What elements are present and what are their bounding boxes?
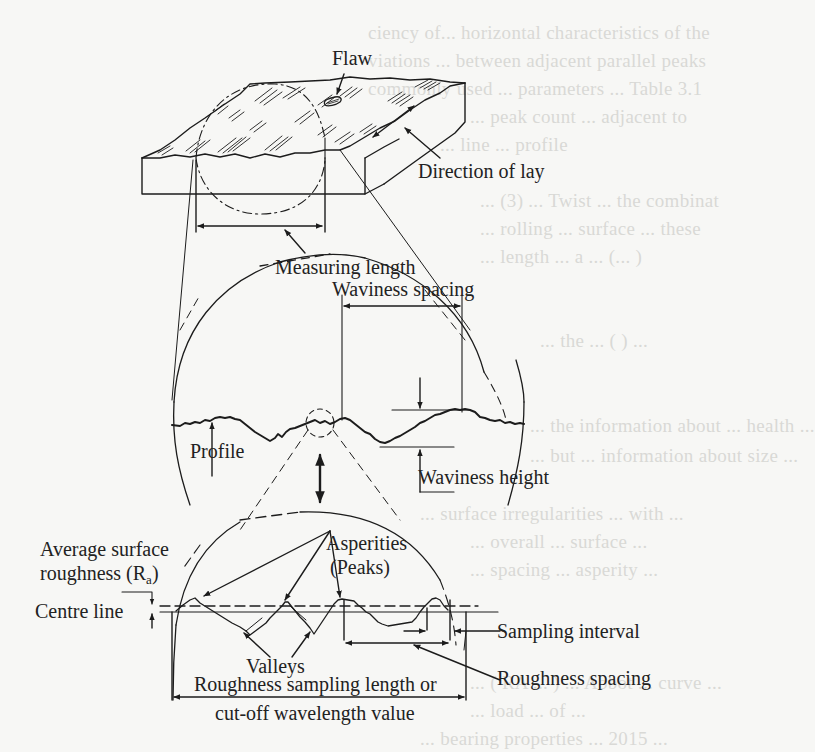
label-peaks: (Peaks) (330, 556, 390, 578)
label-flaw: Flaw (332, 47, 372, 69)
label-profile: Profile (190, 440, 244, 462)
label-centre-line: Centre line (35, 600, 123, 622)
ra-suffix: ) (152, 562, 159, 584)
label-sampling-interval: Sampling interval (497, 620, 640, 642)
ra-prefix: roughness (R (40, 562, 146, 584)
label-average-surface: Average surface (40, 538, 169, 560)
ra-subscript: a (146, 572, 152, 587)
label-roughness-ra: roughness (Ra) (40, 562, 159, 587)
label-direction-of-lay: Direction of lay (418, 160, 545, 182)
label-waviness-spacing: Waviness spacing (332, 278, 474, 300)
roughness-magnified-view (122, 512, 500, 700)
label-measuring-length: Measuring length (275, 256, 416, 278)
label-sampling-length-line1: Roughness sampling length or (194, 673, 437, 695)
label-roughness-spacing: Roughness spacing (497, 667, 651, 689)
specimen-block (142, 74, 465, 232)
label-asperities: Asperities (326, 532, 407, 554)
label-waviness-height: Waviness height (418, 466, 549, 488)
label-sampling-length-line2: cut-off wavelength value (215, 702, 415, 724)
